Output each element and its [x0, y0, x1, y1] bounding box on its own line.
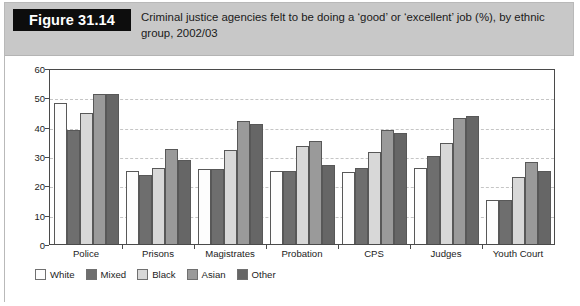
- y-axis-tick-label: 60: [23, 64, 45, 75]
- bar: [80, 113, 93, 244]
- bar: [440, 143, 453, 244]
- bar: [525, 162, 538, 244]
- bar: [237, 121, 250, 244]
- bar-group: [338, 70, 410, 244]
- legend-item: White: [35, 269, 75, 280]
- figure-root: Figure 31.14 Criminal justice agencies f…: [0, 0, 580, 306]
- y-axis-tick-label: 30: [23, 152, 45, 163]
- legend-swatch: [137, 269, 148, 280]
- bar: [54, 103, 67, 244]
- bar: [211, 169, 224, 244]
- bar-group: [194, 70, 266, 244]
- bar: [93, 94, 106, 244]
- legend-item: Other: [237, 269, 276, 280]
- bar: [538, 171, 551, 244]
- bar: [224, 150, 237, 244]
- y-axis-tick-label: 20: [23, 181, 45, 192]
- x-axis-category-label: Judges: [410, 248, 482, 264]
- x-axis-category-label: CPS: [338, 248, 410, 264]
- figure-number-badge: Figure 31.14: [13, 9, 131, 31]
- bar: [126, 171, 139, 244]
- figure-frame: Figure 31.14 Criminal justice agencies f…: [4, 2, 574, 302]
- x-axis-labels: PolicePrisonsMagistratesProbationCPSJudg…: [50, 248, 554, 264]
- bar: [106, 94, 119, 244]
- legend-swatch: [35, 269, 46, 280]
- legend-swatch: [86, 269, 97, 280]
- y-axis-tick: [45, 157, 49, 158]
- bar-group: [122, 70, 194, 244]
- figure-header: Figure 31.14 Criminal justice agencies f…: [5, 3, 573, 56]
- bar: [512, 177, 525, 244]
- bar: [466, 116, 479, 244]
- legend-swatch: [237, 269, 248, 280]
- y-axis-tick: [45, 216, 49, 217]
- legend-item: Mixed: [86, 269, 127, 280]
- bar: [499, 200, 512, 244]
- bar: [322, 165, 335, 244]
- x-axis-category-label: Police: [50, 248, 122, 264]
- y-axis-labels: 0102030405060: [19, 69, 45, 245]
- legend-swatch: [187, 269, 198, 280]
- bar: [342, 172, 355, 244]
- bar: [453, 118, 466, 244]
- y-axis-tick-label: 10: [23, 210, 45, 221]
- legend-item: Black: [137, 269, 175, 280]
- bar: [296, 146, 309, 244]
- bar: [394, 133, 407, 244]
- y-axis-tick: [45, 128, 49, 129]
- bar: [427, 156, 440, 244]
- legend-label: White: [50, 269, 75, 280]
- x-axis-category-label: Prisons: [122, 248, 194, 264]
- legend-item: Asian: [187, 269, 226, 280]
- y-axis-tick: [45, 186, 49, 187]
- y-axis-tick-label: 0: [23, 240, 45, 251]
- y-axis-tick: [45, 98, 49, 99]
- bar-group: [266, 70, 338, 244]
- bar-group: [410, 70, 482, 244]
- bar-groups: [50, 70, 554, 244]
- chart-legend: WhiteMixedBlackAsianOther: [35, 267, 276, 281]
- bar: [139, 175, 152, 244]
- bar: [152, 168, 165, 244]
- bar: [414, 168, 427, 244]
- bar: [250, 124, 263, 244]
- bar: [355, 168, 368, 244]
- x-axis-category-label: Youth Court: [482, 248, 554, 264]
- bar: [381, 130, 394, 244]
- x-axis-category-label: Probation: [266, 248, 338, 264]
- bar: [486, 200, 499, 244]
- legend-label: Black: [152, 269, 175, 280]
- legend-label: Asian: [202, 269, 226, 280]
- bar: [368, 152, 381, 244]
- y-axis-tick-label: 50: [23, 93, 45, 104]
- bar: [283, 171, 296, 244]
- bar-group: [482, 70, 554, 244]
- bar: [309, 141, 322, 244]
- bar: [67, 130, 80, 244]
- bar: [178, 160, 191, 244]
- y-axis-tick: [45, 69, 49, 70]
- bar-group: [50, 70, 122, 244]
- bar: [270, 171, 283, 244]
- y-axis-tick: [45, 245, 49, 246]
- legend-label: Mixed: [101, 269, 127, 280]
- chart-area: 0102030405060 PolicePrisonsMagistratesPr…: [5, 56, 575, 302]
- x-axis-category-label: Magistrates: [194, 248, 266, 264]
- figure-caption: Criminal justice agencies felt to be doi…: [141, 10, 561, 41]
- legend-label: Other: [252, 269, 276, 280]
- bar: [165, 149, 178, 244]
- bar: [198, 169, 211, 244]
- y-axis-tick-label: 40: [23, 122, 45, 133]
